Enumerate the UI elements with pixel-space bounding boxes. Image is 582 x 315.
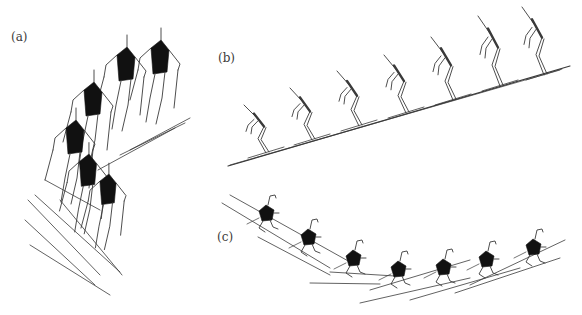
torso <box>84 82 102 116</box>
left-leg <box>146 74 155 122</box>
leg <box>448 67 456 99</box>
torso <box>346 250 361 266</box>
pole <box>174 70 178 108</box>
arm <box>386 72 394 87</box>
panel-a <box>25 28 190 295</box>
leg <box>312 244 320 253</box>
torso <box>479 251 494 267</box>
left-leg <box>61 154 70 202</box>
track-c <box>230 195 350 262</box>
pole <box>107 112 111 150</box>
arm <box>251 121 258 134</box>
head <box>355 240 363 250</box>
leg <box>402 276 410 285</box>
ski <box>435 94 471 105</box>
back <box>532 19 542 37</box>
arm <box>246 119 254 131</box>
figure-canvas <box>0 0 582 315</box>
pole <box>514 252 526 258</box>
ski-a <box>98 128 175 170</box>
head <box>310 219 318 229</box>
arm <box>480 37 488 55</box>
torso <box>117 47 135 81</box>
head <box>445 249 453 259</box>
skier-c-5 <box>424 249 456 286</box>
arm <box>292 104 300 117</box>
torso <box>79 154 96 186</box>
leg <box>401 82 409 112</box>
ski-a <box>130 118 190 150</box>
arm <box>339 88 347 102</box>
leg <box>346 266 352 277</box>
torso <box>436 259 451 275</box>
skier-b-5 <box>431 37 471 105</box>
leg <box>537 254 545 263</box>
skier-b-3 <box>337 71 377 131</box>
left-arm <box>71 90 84 112</box>
skier-b-7 <box>522 7 562 80</box>
skier-a-2 <box>96 35 146 131</box>
torso <box>66 120 84 154</box>
left-arm <box>104 55 117 77</box>
track-c <box>455 258 560 293</box>
head <box>400 251 408 261</box>
leg <box>495 49 503 85</box>
arm <box>485 39 492 58</box>
skier-c-1 <box>247 195 279 232</box>
panel-b <box>228 7 570 166</box>
left-leg <box>112 81 121 129</box>
leg <box>526 255 532 266</box>
pole <box>334 263 346 269</box>
head <box>268 195 276 205</box>
back <box>441 48 451 65</box>
right-leg <box>84 184 93 233</box>
torso <box>100 174 116 205</box>
right-leg <box>122 79 131 131</box>
back <box>300 97 310 111</box>
right-arm <box>116 183 126 201</box>
track-c <box>258 237 330 275</box>
pole <box>467 264 479 270</box>
arm <box>529 29 536 47</box>
skier-c-2 <box>289 219 321 256</box>
back <box>254 114 264 127</box>
ski-a <box>35 195 120 272</box>
left-arm <box>138 48 151 70</box>
skier-c-6 <box>467 241 499 278</box>
arm <box>297 105 304 119</box>
head <box>535 229 543 239</box>
leg <box>357 265 365 274</box>
skier-b-6 <box>478 16 518 91</box>
leg <box>301 245 307 256</box>
panel-c <box>222 195 565 303</box>
skier-b-1 <box>244 105 284 158</box>
slope-b-shadow <box>230 70 560 165</box>
arm <box>438 58 445 75</box>
skier-c-3 <box>334 240 366 277</box>
leg <box>354 97 362 125</box>
arm <box>433 56 441 72</box>
track-c <box>310 283 380 284</box>
right-arm <box>102 92 113 112</box>
back <box>347 81 357 96</box>
ski <box>526 69 562 80</box>
back <box>488 29 498 48</box>
arm <box>524 27 532 44</box>
pole <box>45 150 53 180</box>
right-leg <box>104 203 112 250</box>
ski <box>248 147 284 158</box>
right-leg <box>156 72 165 124</box>
right-arm <box>169 50 180 70</box>
skier-b-4 <box>384 55 424 118</box>
ski <box>388 107 424 118</box>
leg <box>261 128 269 152</box>
torso <box>526 239 541 255</box>
pole <box>81 201 88 228</box>
torso <box>151 40 169 74</box>
track-c <box>360 278 470 303</box>
ski <box>294 134 330 145</box>
leg <box>479 267 485 278</box>
ski-a <box>60 200 122 275</box>
arm <box>391 74 398 90</box>
leg <box>259 221 265 232</box>
